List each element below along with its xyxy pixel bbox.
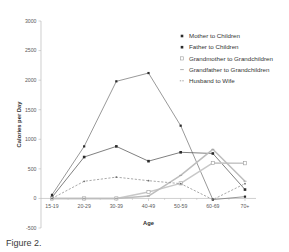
data-point-marker [243,162,246,165]
legend-item[interactable]: Grandfather to Grandchildren [180,66,270,73]
y-axis-tick-label: 2500 [25,47,37,53]
data-point-marker [51,194,53,196]
data-point-marker [115,80,117,82]
y-axis-tick-label: 500 [28,166,37,172]
x-axis-tick-label: 15-19 [45,203,58,209]
legend-label: Mother to Children [189,32,240,39]
legend-item[interactable]: Mother to Children [181,32,241,39]
legend-item[interactable]: Husband to Wife [180,77,236,84]
series-5 [51,176,246,200]
data-point-marker [244,196,246,198]
data-point-marker [147,160,150,163]
y-axis-tick-label: 2000 [25,77,37,83]
data-point-marker [180,183,182,185]
x-axis-tick-label: 30-39 [110,203,123,209]
series-line [52,146,245,197]
y-axis-tick-label: 0 [34,195,37,201]
legend-marker-icon [181,46,184,49]
data-point-marker [179,151,182,154]
y-axis-title: Calories per Day [16,101,22,148]
data-point-marker [147,190,150,193]
data-point-marker [51,198,53,200]
legend-item[interactable]: Grandmother to Grandchildren [180,55,273,62]
x-axis-tick-label: 40-49 [142,203,155,209]
legend-label: Grandmother to Grandchildren [189,55,273,62]
calories-per-day-line-chart: -50005001000150020002500300015-1920-2930… [0,0,289,252]
legend-marker-icon [180,57,183,60]
legend-label: Grandfather to Grandchildren [189,66,270,73]
data-point-marker [147,72,149,74]
data-point-marker [212,152,215,155]
data-point-marker [115,176,117,178]
data-point-marker [148,180,150,182]
legend-item[interactable]: Father to Children [181,43,239,50]
data-point-marker [115,145,118,148]
y-axis-tick-label: 1000 [25,136,37,142]
y-axis-tick-label: -500 [26,225,36,231]
data-point-marker [180,125,182,127]
data-point-marker [244,183,246,185]
y-axis-tick-label: 1500 [25,107,37,113]
figure-caption: Figure 2. [6,238,286,252]
x-axis-title: Age [143,220,155,226]
chart-legend: Mother to ChildrenFather to ChildrenGran… [180,32,274,84]
data-point-marker [83,180,85,182]
legend-label: Father to Children [189,43,239,50]
data-point-marker [83,156,86,159]
data-point-marker [83,145,85,147]
legend-label: Husband to Wife [189,77,235,84]
data-point-marker [212,199,214,201]
x-axis-tick-label: 70+ [241,203,250,209]
chart-figure: -50005001000150020002500300015-1920-2930… [0,0,289,252]
data-point-marker [211,161,214,164]
x-axis-tick-label: 20-29 [78,203,91,209]
y-axis-tick-label: 3000 [25,18,37,24]
x-axis-tick-label: 50-59 [174,203,187,209]
legend-marker-icon [181,35,184,38]
x-axis-tick-label: 60-69 [206,203,219,209]
data-point-marker [244,188,247,191]
